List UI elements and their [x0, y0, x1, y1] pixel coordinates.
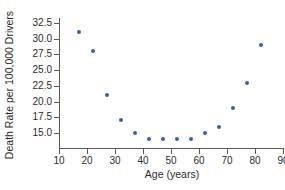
x-tick-label: 50 — [159, 156, 183, 166]
y-tick-label: 17.5 — [22, 112, 52, 122]
y-tick-mark — [54, 23, 59, 24]
x-tick-mark — [227, 149, 228, 154]
y-tick-label: 32.5 — [22, 18, 52, 28]
x-tick-mark — [283, 149, 284, 154]
y-tick-mark — [54, 39, 59, 40]
x-tick-label: 30 — [103, 156, 127, 166]
data-point — [175, 137, 179, 141]
scatter-chart-figure: Death Rate per 100,000 Drivers 15.017.52… — [0, 0, 285, 190]
x-tick-label: 10 — [47, 156, 71, 166]
data-point — [245, 81, 249, 85]
plot-area — [60, 18, 283, 148]
data-point — [133, 131, 137, 135]
y-tick-mark — [54, 70, 59, 71]
data-point — [147, 137, 151, 141]
x-tick-label: 80 — [243, 156, 267, 166]
data-point — [259, 43, 263, 47]
x-tick-label: 20 — [75, 156, 99, 166]
x-tick-mark — [255, 149, 256, 154]
y-axis-title: Death Rate per 100,000 Drivers — [2, 10, 16, 160]
x-tick-mark — [87, 149, 88, 154]
x-tick-label: 90 — [271, 156, 285, 166]
y-tick-label: 25.0 — [22, 65, 52, 75]
y-tick-label: 20.0 — [22, 97, 52, 107]
data-point — [105, 93, 109, 97]
x-tick-mark — [143, 149, 144, 154]
y-tick-mark — [54, 102, 59, 103]
x-tick-mark — [199, 149, 200, 154]
y-tick-mark — [54, 54, 59, 55]
data-point — [91, 49, 95, 53]
y-tick-mark — [54, 133, 59, 134]
data-point — [231, 106, 235, 110]
y-tick-label: 30.0 — [22, 34, 52, 44]
y-tick-label: 15.0 — [22, 128, 52, 138]
x-tick-label: 40 — [131, 156, 155, 166]
y-tick-mark — [54, 86, 59, 87]
y-tick-mark — [54, 117, 59, 118]
x-tick-mark — [171, 149, 172, 154]
data-point — [161, 137, 165, 141]
x-tick-label: 60 — [187, 156, 211, 166]
data-point — [203, 131, 207, 135]
x-tick-mark — [59, 149, 60, 154]
x-tick-label: 70 — [215, 156, 239, 166]
y-tick-label: 27.5 — [22, 49, 52, 59]
x-tick-mark — [115, 149, 116, 154]
data-point — [217, 125, 221, 129]
data-point — [189, 137, 193, 141]
x-axis-title: Age (years) — [60, 168, 284, 180]
y-tick-label: 22.5 — [22, 81, 52, 91]
